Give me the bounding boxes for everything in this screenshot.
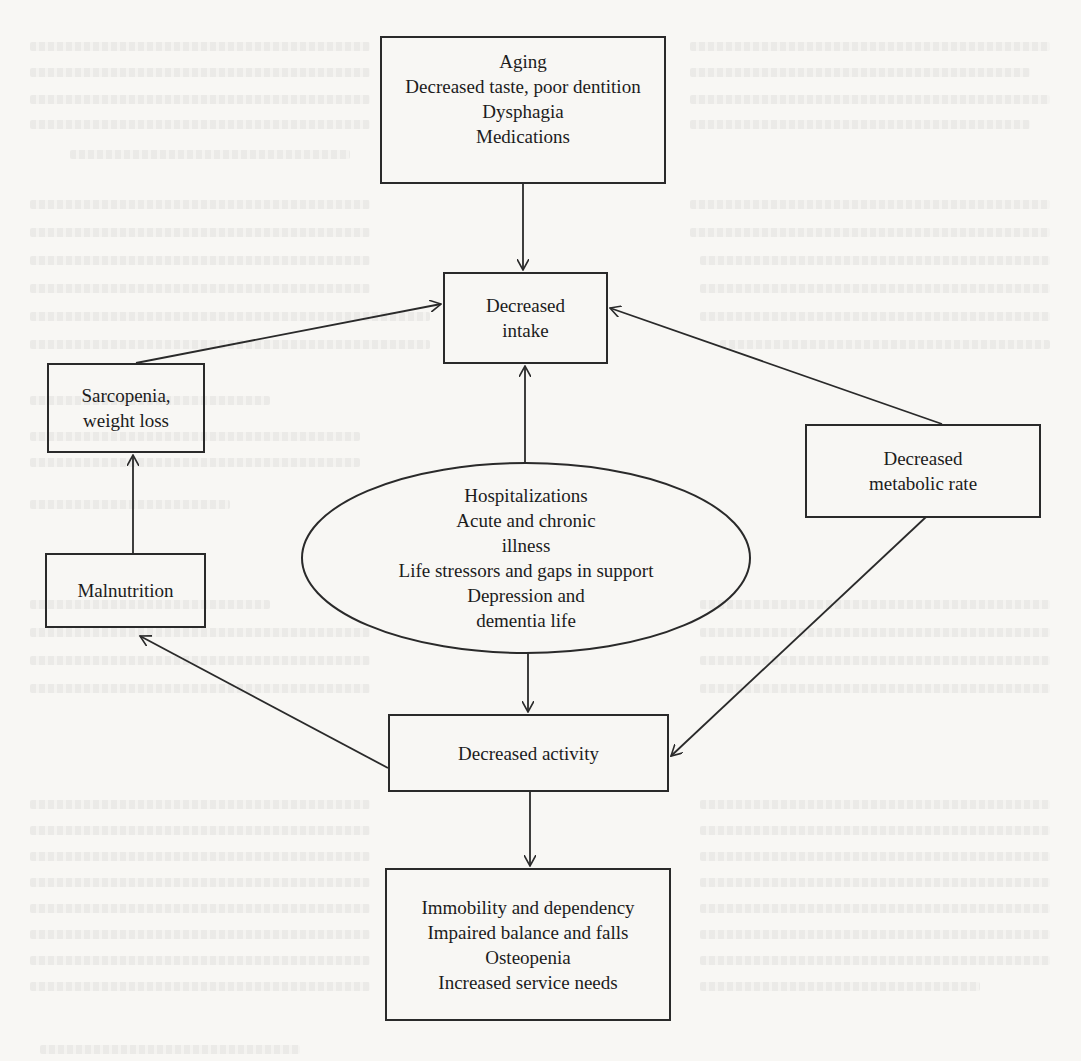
aging-line-2: Decreased taste, poor dentition xyxy=(405,74,640,99)
outcomes-line-2: Impaired balance and falls xyxy=(428,920,629,945)
activity-line-1: Decreased activity xyxy=(458,741,599,766)
stressors-line-5: Depression and xyxy=(467,583,585,608)
stressors-line-6: dementia life xyxy=(476,608,576,633)
stressors-line-3: illness xyxy=(502,533,551,558)
stressors-line-1: Hospitalizations xyxy=(464,483,587,508)
node-decreased-intake: Decreased intake xyxy=(443,272,608,364)
outcomes-line-1: Immobility and dependency xyxy=(421,895,634,920)
malnutrition-line-1: Malnutrition xyxy=(77,578,173,603)
edge-metabolic-to-intake xyxy=(610,308,942,424)
outcomes-line-4: Increased service needs xyxy=(438,970,617,995)
edge-sarcopenia-to-intake xyxy=(136,304,441,363)
stressors-line-4: Life stressors and gaps in support xyxy=(399,558,654,583)
node-sarcopenia: Sarcopenia, weight loss xyxy=(47,363,205,453)
book-page: Aging Decreased taste, poor dentition Dy… xyxy=(0,0,1081,1061)
node-aging-factors: Aging Decreased taste, poor dentition Dy… xyxy=(380,36,666,184)
node-decreased-activity: Decreased activity xyxy=(388,714,669,792)
intake-line-1: Decreased xyxy=(486,293,565,318)
metabolic-line-1: Decreased xyxy=(883,446,962,471)
outcomes-line-3: Osteopenia xyxy=(485,945,570,970)
aging-line-1: Aging xyxy=(499,49,547,74)
edge-activity-to-malnutrition xyxy=(140,636,388,768)
node-stressors: Hospitalizations Acute and chronic illne… xyxy=(302,463,750,653)
node-malnutrition: Malnutrition xyxy=(45,553,206,628)
metabolic-line-2: metabolic rate xyxy=(869,471,977,496)
node-metabolic-rate: Decreased metabolic rate xyxy=(805,424,1041,518)
sarcopenia-line-1: Sarcopenia, xyxy=(81,383,170,408)
aging-line-4: Medications xyxy=(476,124,570,149)
aging-line-3: Dysphagia xyxy=(482,99,563,124)
node-outcomes: Immobility and dependency Impaired balan… xyxy=(385,868,671,1021)
intake-line-2: intake xyxy=(502,318,548,343)
stressors-line-2: Acute and chronic xyxy=(456,508,595,533)
sarcopenia-line-2: weight loss xyxy=(83,408,169,433)
